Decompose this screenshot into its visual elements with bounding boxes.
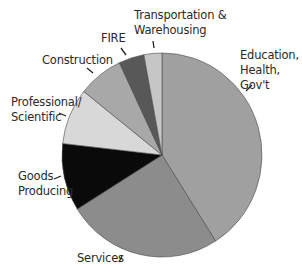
label-transportation: Transportation & Warehousing bbox=[134, 8, 226, 38]
label-goods: Goods Producing bbox=[18, 169, 73, 199]
label-professional: Professional/ Scientific bbox=[11, 95, 81, 125]
pie-slices bbox=[62, 53, 262, 257]
leader-line-construction bbox=[87, 68, 93, 73]
pie-chart bbox=[0, 0, 302, 274]
leader-line-transportation bbox=[153, 41, 154, 48]
label-construction: Construction bbox=[42, 53, 113, 68]
label-fire: FIRE bbox=[101, 31, 125, 46]
label-education: Education, Health, Gov't bbox=[240, 48, 299, 93]
leader-line-fire bbox=[121, 48, 126, 55]
label-services: Services bbox=[77, 251, 124, 266]
